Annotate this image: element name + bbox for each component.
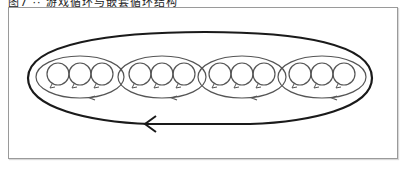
small-loop	[91, 63, 113, 88]
loop-group-4-arrow-icon	[332, 96, 337, 100]
small-loop	[289, 63, 311, 88]
loop-group-4	[278, 56, 366, 100]
small-loop	[253, 63, 275, 88]
small-loop	[151, 63, 173, 88]
nested-loop-diagram	[0, 0, 408, 169]
outer-loop	[28, 32, 372, 132]
small-loop	[69, 63, 91, 88]
loop-group-3	[198, 56, 286, 100]
small-loop	[47, 63, 69, 88]
small-loop	[209, 63, 231, 88]
loop-group-1-arrow-icon	[90, 96, 95, 100]
small-loop	[311, 63, 333, 88]
loop-group-2-arrow-icon	[172, 96, 177, 100]
loop-group-3-arrow-icon	[252, 96, 257, 100]
loop-group-2	[118, 56, 206, 100]
small-loop	[129, 63, 151, 88]
small-loop	[333, 63, 355, 88]
loop-group-1	[36, 56, 124, 100]
small-loop	[173, 63, 195, 88]
small-loop	[231, 63, 253, 88]
